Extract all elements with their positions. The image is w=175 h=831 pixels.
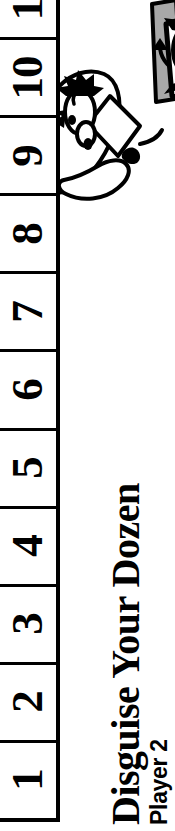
score-cell-4[interactable]: 4 xyxy=(0,509,56,587)
score-cell-label: 3 xyxy=(5,614,50,636)
score-cell-5[interactable]: 5 xyxy=(0,431,56,509)
right-panel: Disguise Your Dozen Player 2 xyxy=(60,0,175,831)
cartoon-poodle-illustration xyxy=(60,0,175,205)
score-cell-label: 7 xyxy=(5,301,50,323)
score-cell-label: 10 xyxy=(5,56,50,99)
score-cell-9[interactable]: 9 xyxy=(0,118,56,196)
score-cell-2[interactable]: 2 xyxy=(0,665,56,743)
illustration-artwork xyxy=(60,0,175,205)
score-cell-label: 6 xyxy=(5,379,50,401)
score-track: 11 10 9 8 7 6 5 4 3 2 1 xyxy=(0,0,60,822)
score-cell-8[interactable]: 8 xyxy=(0,196,56,274)
score-cell-10[interactable]: 10 xyxy=(0,40,56,118)
score-cell-label: 5 xyxy=(5,457,50,479)
score-cell-label: 2 xyxy=(5,692,50,714)
score-cell-label: 8 xyxy=(5,223,50,245)
score-cell-11[interactable]: 11 xyxy=(0,0,56,40)
score-cell-6[interactable]: 6 xyxy=(0,352,56,430)
title-block: Disguise Your Dozen Player 2 xyxy=(60,200,175,831)
activity-sheet-page: 11 10 9 8 7 6 5 4 3 2 1 xyxy=(0,0,175,831)
score-cell-label: 1 xyxy=(5,770,50,792)
page-title: Disguise Your Dozen xyxy=(106,483,146,825)
player-label: Player 2 xyxy=(148,739,171,825)
score-cell-label: 4 xyxy=(5,535,50,557)
score-cell-label: 11 xyxy=(5,0,50,20)
score-cell-3[interactable]: 3 xyxy=(0,587,56,665)
score-cell-7[interactable]: 7 xyxy=(0,274,56,352)
score-cell-label: 9 xyxy=(5,145,50,167)
score-cell-1[interactable]: 1 xyxy=(0,743,56,818)
